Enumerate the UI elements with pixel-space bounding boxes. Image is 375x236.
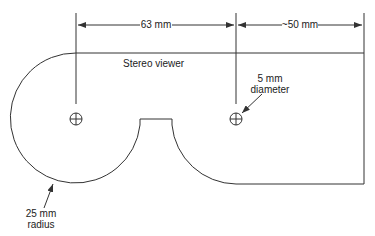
eye-hole-left-icon	[70, 113, 82, 125]
diagram-title: Stereo viewer	[123, 58, 185, 69]
stereo-viewer-diagram: 63 mm ~50 mm Stereo viewer 5 mm diameter…	[0, 0, 375, 236]
eye-hole-right-icon	[230, 113, 242, 125]
radius-label-line1: 25 mm	[26, 208, 57, 219]
dimension-label-50mm: ~50 mm	[282, 19, 318, 30]
extension-lines	[76, 13, 364, 104]
hole-size-leader	[242, 94, 262, 113]
viewer-outline	[10, 53, 364, 184]
hole-size-label-line1: 5 mm	[258, 73, 283, 84]
radius-leader	[44, 184, 53, 208]
hole-size-label-line2: diameter	[251, 84, 291, 95]
dimension-label-63mm: 63 mm	[141, 19, 172, 30]
radius-label-line2: radius	[27, 219, 54, 230]
